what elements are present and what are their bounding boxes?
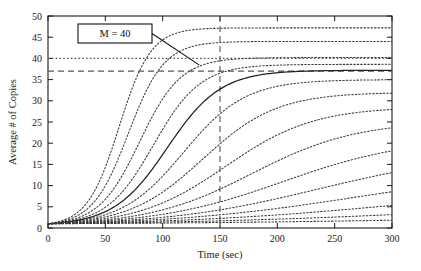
y-tick-label-0: 0 <box>37 223 42 234</box>
x-tick-label-0: 0 <box>46 233 51 244</box>
x-tick-label-150: 150 <box>213 233 228 244</box>
y-tick-label-50: 50 <box>32 11 42 22</box>
y-tick-label-40: 40 <box>32 53 42 64</box>
x-tick-label-50: 50 <box>100 233 110 244</box>
y-axis-title: Average # of Copies <box>7 79 18 165</box>
y-tick-label-30: 30 <box>32 95 42 106</box>
plot-area: 05010015020025030005101520253035404550Ti… <box>0 0 421 271</box>
x-axis-title: Time (sec) <box>198 249 243 261</box>
x-tick-label-300: 300 <box>385 233 400 244</box>
x-tick-label-250: 250 <box>327 233 342 244</box>
x-tick-label-200: 200 <box>270 233 285 244</box>
x-tick-label-100: 100 <box>155 233 170 244</box>
y-tick-label-45: 45 <box>32 32 42 43</box>
y-tick-label-20: 20 <box>32 138 42 149</box>
y-tick-label-25: 25 <box>32 117 42 128</box>
annotation-label: M = 40 <box>99 28 130 39</box>
y-tick-label-10: 10 <box>32 180 42 191</box>
y-tick-label-35: 35 <box>32 74 42 85</box>
chart-figure: 05010015020025030005101520253035404550Ti… <box>0 0 421 271</box>
y-tick-label-15: 15 <box>32 159 42 170</box>
y-tick-label-5: 5 <box>37 201 42 212</box>
